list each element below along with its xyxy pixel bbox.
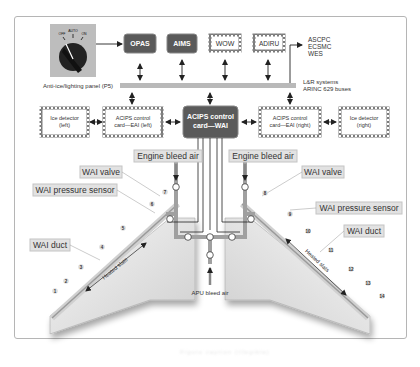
wai-valve-left-icon bbox=[173, 184, 180, 191]
left-wing bbox=[50, 218, 195, 334]
svg-text:WAI valve: WAI valve bbox=[304, 167, 342, 177]
svg-text:ADIRU: ADIRU bbox=[259, 40, 280, 47]
svg-text:OPAS: OPAS bbox=[130, 40, 150, 47]
svg-text:12: 12 bbox=[348, 267, 354, 272]
svg-text:Engine bleed air: Engine bleed air bbox=[137, 151, 199, 161]
switch-position-on: ON bbox=[81, 32, 87, 36]
apu-valve-icon bbox=[207, 252, 214, 259]
svg-text:ACIPS control: ACIPS control bbox=[116, 115, 151, 121]
acips-control-card-eai-left: ACIPS control card—EAI (left) bbox=[104, 108, 162, 136]
isolation-valve-right-icon bbox=[229, 234, 236, 241]
adiru-unit: ADIRU bbox=[254, 35, 284, 51]
svg-text:WAI pressure sensor: WAI pressure sensor bbox=[319, 203, 398, 213]
svg-text:card—EAI (left): card—EAI (left) bbox=[114, 122, 152, 128]
external-systems-list: ASCPC ECSMC WES bbox=[308, 36, 332, 57]
ice-detector-left: Ice detector (left) bbox=[41, 108, 88, 136]
callout-wai-valve-left: WAI valve bbox=[80, 166, 122, 178]
callout-pressure-sensor-right: WAI pressure sensor bbox=[316, 202, 402, 214]
panel-label: Anti-ice/lighting panel (P5) bbox=[43, 83, 113, 89]
wow-unit: WOW bbox=[210, 35, 240, 51]
figure-caption: Figure caption (illegible) bbox=[150, 349, 300, 357]
svg-text:Ice detector: Ice detector bbox=[350, 115, 379, 121]
callout-wai-valve-right: WAI valve bbox=[302, 166, 344, 178]
wai-valve-right-icon bbox=[242, 184, 249, 191]
svg-text:13: 13 bbox=[365, 281, 371, 286]
rotary-knob-icon bbox=[59, 43, 87, 71]
svg-text:ASCPC: ASCPC bbox=[308, 36, 331, 43]
svg-text:14: 14 bbox=[379, 294, 385, 299]
callout-wai-duct-left: WAI duct bbox=[30, 239, 70, 251]
arinc-629-bus-bar bbox=[120, 83, 296, 88]
anti-ice-selector-switch[interactable]: OFF AUTO ON bbox=[50, 24, 96, 77]
isolation-valve-left-icon bbox=[185, 234, 192, 241]
switch-position-auto: AUTO bbox=[68, 29, 78, 33]
svg-text:WAI duct: WAI duct bbox=[33, 240, 68, 250]
svg-text:Engine bleed air: Engine bleed air bbox=[232, 151, 294, 161]
wing-anti-ice-diagram: OFF AUTO ON OPAS AIMS WOW ADIRU ASCPC EC… bbox=[0, 0, 420, 367]
svg-text:card—EAI (right): card—EAI (right) bbox=[270, 122, 311, 128]
svg-text:card—WAI: card—WAI bbox=[193, 122, 228, 129]
svg-text:10: 10 bbox=[305, 229, 311, 234]
svg-text:(left): (left) bbox=[59, 122, 70, 128]
bus-label-line1: L&R systems bbox=[303, 79, 338, 85]
pressure-sensor-right-icon bbox=[248, 216, 255, 223]
svg-text:WAI valve: WAI valve bbox=[82, 167, 120, 177]
callout-engine-bleed-left: Engine bleed air bbox=[134, 150, 202, 162]
svg-text:(right): (right) bbox=[357, 122, 372, 128]
callout-pressure-sensor-left: WAI pressure sensor bbox=[33, 184, 117, 196]
svg-text:AIMS: AIMS bbox=[173, 40, 191, 47]
callout-wai-duct-right: WAI duct bbox=[344, 225, 384, 237]
svg-text:ACIPS control: ACIPS control bbox=[273, 115, 308, 121]
switch-position-off: OFF bbox=[59, 32, 66, 36]
pressure-sensor-left-icon bbox=[167, 216, 174, 223]
svg-text:Ice detector: Ice detector bbox=[50, 115, 79, 121]
svg-text:11: 11 bbox=[329, 248, 334, 253]
svg-text:WAI pressure sensor: WAI pressure sensor bbox=[35, 185, 114, 195]
acips-control-card-wai: ACIPS control card—WAI bbox=[183, 106, 238, 138]
ice-detector-right: Ice detector (right) bbox=[340, 108, 388, 136]
svg-text:WOW: WOW bbox=[216, 40, 235, 47]
svg-text:ECSMC: ECSMC bbox=[308, 43, 332, 50]
svg-text:ACIPS control: ACIPS control bbox=[187, 113, 234, 120]
opas-unit: OPAS bbox=[124, 34, 156, 53]
acips-control-card-eai-right: ACIPS control card—EAI (right) bbox=[260, 108, 320, 136]
svg-text:WES: WES bbox=[308, 50, 323, 57]
svg-text:WAI duct: WAI duct bbox=[347, 226, 382, 236]
callout-engine-bleed-right: Engine bleed air bbox=[229, 150, 297, 162]
center-valve-icon bbox=[207, 234, 214, 241]
aims-unit: AIMS bbox=[167, 34, 197, 53]
bus-label-line2: ARINC 629 buses bbox=[303, 86, 351, 92]
apu-bleed-air-label: APU bleed air bbox=[191, 290, 228, 296]
